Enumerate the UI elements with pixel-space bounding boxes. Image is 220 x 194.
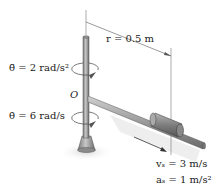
label-angular-velocity: θ̇ = 6 rad/s <box>9 111 65 121</box>
label-r: r = 0.5 m <box>106 34 154 44</box>
arm-end <box>203 143 206 149</box>
label-origin: O <box>70 90 78 100</box>
collar-front <box>177 124 184 137</box>
vertical-shaft <box>83 37 89 138</box>
collar-back <box>150 113 156 126</box>
label-collar-velocity: vₛ = 3 m/s <box>156 159 207 169</box>
pedestal-foot <box>78 148 96 153</box>
dimension-arrowhead-icon <box>164 52 171 56</box>
label-collar-acceleration: aₛ = 1 m/s² <box>156 175 212 185</box>
label-angular-acceleration: θ̈ = 2 rad/s² <box>9 63 69 73</box>
shaft-top <box>83 36 89 38</box>
